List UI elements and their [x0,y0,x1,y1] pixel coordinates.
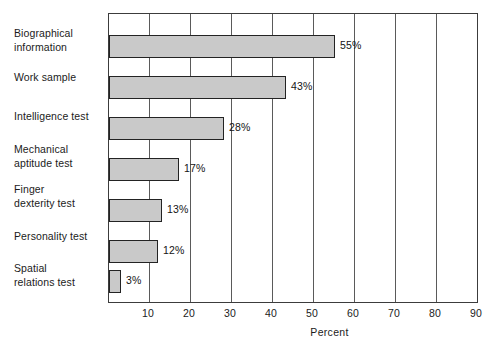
xtick-label-20: 20 [174,307,204,319]
category-axis-labels: Biographical information Work sample Int… [0,0,106,351]
category-label-biographical-information: Biographical information [14,27,110,54]
bar-intelligence-test [109,117,224,140]
category-label-intelligence-test: Intelligence test [14,110,110,124]
xtick-label-60: 60 [338,307,368,319]
category-label-spatial-relations-test: Spatial relations test [14,262,110,289]
x-axis-title-wrapper: Percent [0,326,499,338]
xtick-label-10: 10 [133,307,163,319]
gridline-60 [354,14,355,302]
value-label-mechanical-aptitude-test: 17% [184,162,206,174]
category-label-finger-dexterity-test: Finger dexterity test [14,183,110,210]
plot-area [108,13,478,303]
value-label-intelligence-test: 28% [229,121,251,133]
xtick-label-80: 80 [420,307,450,319]
bar-biographical-information [109,35,335,58]
value-label-work-sample: 43% [291,80,313,92]
xtick-label-50: 50 [297,307,327,319]
xtick-label-70: 70 [379,307,409,319]
x-axis-title: Percent [310,326,348,338]
gridline-70 [395,14,396,302]
bar-personality-test [109,240,158,263]
value-label-finger-dexterity-test: 13% [167,203,189,215]
xtick-label-40: 40 [256,307,286,319]
bar-spatial-relations-test [109,270,121,293]
bar-mechanical-aptitude-test [109,158,179,181]
chart-figure: Biographical information Work sample Int… [0,0,499,351]
category-label-work-sample: Work sample [14,71,110,85]
xtick-label-90: 90 [461,307,491,319]
value-label-personality-test: 12% [163,244,185,256]
bar-finger-dexterity-test [109,199,162,222]
category-label-mechanical-aptitude-test: Mechanical aptitude test [14,143,110,170]
bar-work-sample [109,76,286,99]
gridline-80 [436,14,437,302]
value-label-spatial-relations-test: 3% [126,274,142,286]
category-label-personality-test: Personality test [14,230,110,244]
value-label-biographical-information: 55% [340,39,362,51]
xtick-label-30: 30 [215,307,245,319]
